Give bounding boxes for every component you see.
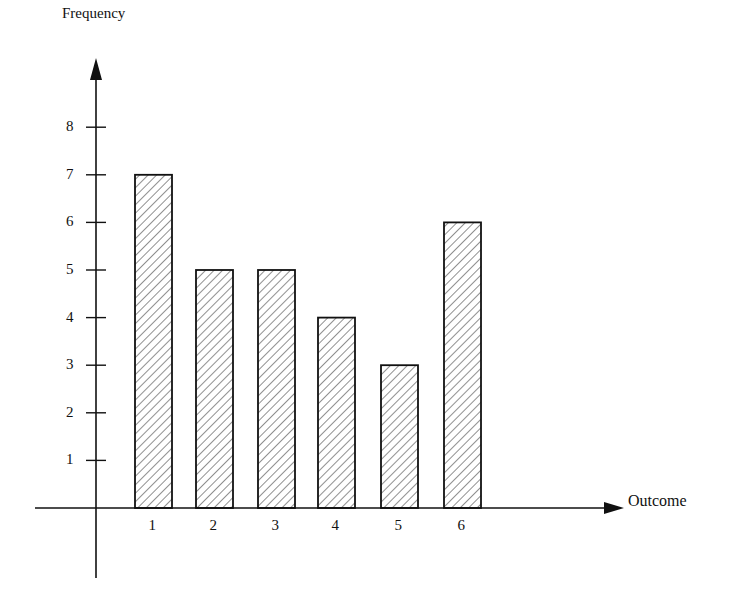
y-tick-label: 4 (66, 310, 74, 325)
y-tick-label: 3 (66, 357, 74, 372)
x-axis-arrow-icon (604, 502, 624, 514)
y-tick-label: 8 (66, 119, 74, 134)
y-tick-label: 1 (66, 452, 74, 467)
x-tick-label: 5 (395, 518, 403, 533)
bar-6 (444, 222, 481, 508)
y-tick-label: 7 (66, 167, 74, 182)
x-axis-label: Outcome (628, 493, 687, 509)
bar-4 (318, 318, 355, 508)
bar-2 (196, 270, 233, 508)
x-tick-label: 4 (332, 518, 340, 533)
x-tick-label: 1 (149, 518, 157, 533)
x-tick-label: 3 (272, 518, 280, 533)
bar-5 (381, 365, 418, 508)
bar-1 (135, 175, 172, 508)
x-tick-label: 6 (458, 518, 466, 533)
x-tick-label: 2 (210, 518, 218, 533)
y-axis-arrow-icon (90, 58, 102, 80)
y-tick-label: 2 (66, 405, 74, 420)
y-tick-label: 6 (66, 214, 74, 229)
y-tick-label: 5 (66, 262, 74, 277)
y-axis-label: Frequency (62, 6, 125, 21)
bars-group (135, 175, 481, 508)
bar-chart (0, 0, 732, 606)
bar-3 (258, 270, 295, 508)
